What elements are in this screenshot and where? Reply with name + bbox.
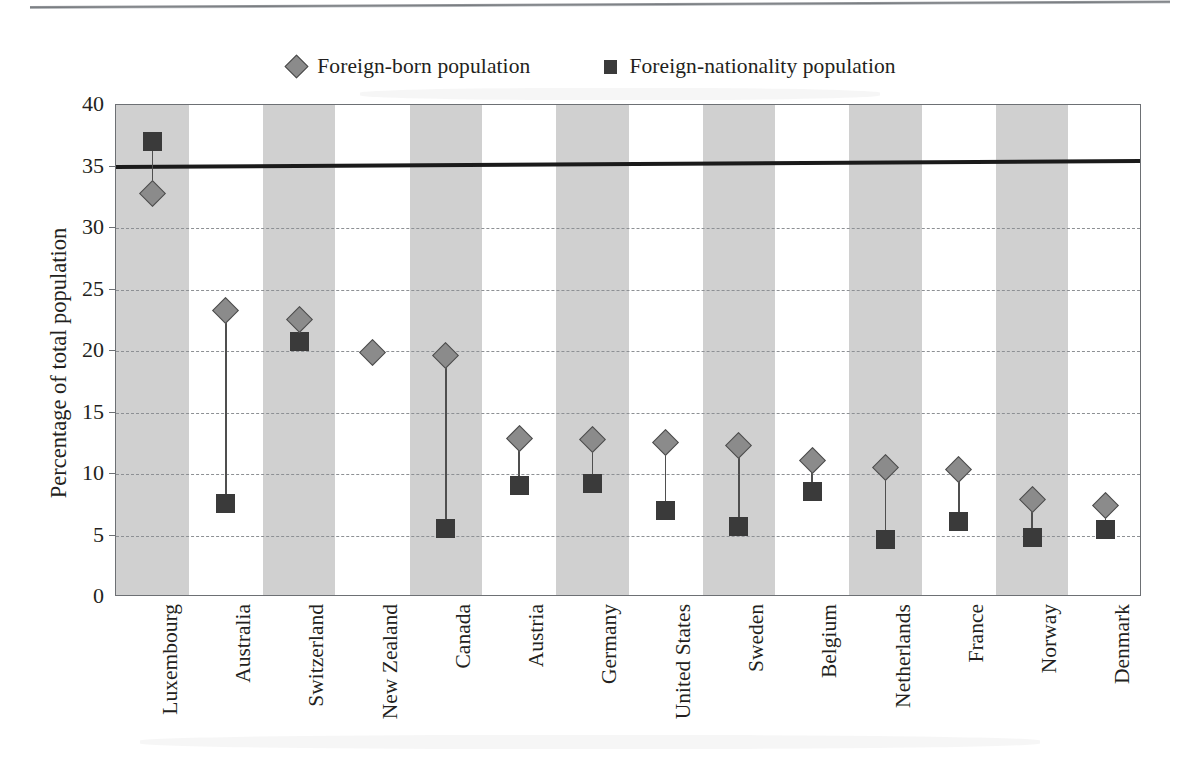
x-tick-label-text: Germany bbox=[599, 604, 621, 684]
y-tick-mark bbox=[109, 227, 116, 228]
x-tick-label: Belgium bbox=[819, 530, 841, 604]
page-top-rule bbox=[30, 0, 1170, 9]
x-tick-label: France bbox=[966, 546, 988, 605]
x-tick-label: Germany bbox=[599, 524, 621, 604]
legend-item-foreign-born: Foreign-born population bbox=[288, 54, 530, 79]
x-tick-label-text: France bbox=[966, 604, 988, 663]
x-tick-label: Sweden bbox=[746, 536, 768, 604]
y-tick-mark bbox=[109, 412, 116, 413]
x-tick-label: Netherlands bbox=[893, 500, 915, 604]
x-tick-label: Australia bbox=[233, 525, 255, 604]
y-tick-mark bbox=[109, 289, 116, 290]
y-tick-label: 40 bbox=[40, 93, 104, 115]
scan-artifact bbox=[140, 735, 1040, 749]
x-tick-label-text: United States bbox=[673, 604, 695, 719]
legend-item-foreign-nationality: Foreign-nationality population bbox=[604, 54, 895, 79]
x-tick-label-text: Denmark bbox=[1112, 604, 1134, 684]
y-tick-mark bbox=[109, 166, 116, 167]
x-tick-label-text: Netherlands bbox=[893, 604, 915, 708]
chart-legend: Foreign-born population Foreign-national… bbox=[0, 54, 1184, 79]
y-axis-title: Percentage of total population bbox=[46, 153, 72, 573]
x-tick-label-text: Canada bbox=[453, 604, 475, 668]
x-tick-label-text: Norway bbox=[1039, 604, 1061, 673]
square-icon bbox=[604, 60, 617, 74]
scan-artifact bbox=[360, 88, 880, 100]
x-tick-label-text: Austria bbox=[526, 604, 548, 667]
legend-label: Foreign-nationality population bbox=[629, 54, 895, 79]
x-tick-label: Switzerland bbox=[306, 501, 328, 604]
x-tick-label-text: Switzerland bbox=[306, 604, 328, 707]
x-tick-label: Denmark bbox=[1112, 524, 1134, 604]
x-tick-label-text: Luxembourg bbox=[160, 604, 182, 715]
x-tick-label-text: New Zealand bbox=[380, 604, 402, 719]
x-tick-label: Luxembourg bbox=[160, 493, 182, 604]
x-tick-label: New Zealand bbox=[380, 489, 402, 604]
x-tick-label-text: Australia bbox=[233, 604, 255, 683]
y-tick-mark bbox=[109, 350, 116, 351]
y-tick-label: 0 bbox=[40, 585, 104, 607]
x-tick-label-text: Belgium bbox=[819, 604, 841, 678]
x-tick-label: United States bbox=[673, 489, 695, 604]
x-tick-label: Norway bbox=[1039, 535, 1061, 604]
diamond-icon bbox=[285, 54, 309, 78]
y-tick-mark bbox=[109, 473, 116, 474]
y-tick-mark bbox=[109, 535, 116, 536]
x-tick-label: Canada bbox=[453, 540, 475, 604]
legend-label: Foreign-born population bbox=[317, 54, 530, 79]
x-tick-label-text: Sweden bbox=[746, 604, 768, 672]
x-tick-label: Austria bbox=[526, 541, 548, 604]
